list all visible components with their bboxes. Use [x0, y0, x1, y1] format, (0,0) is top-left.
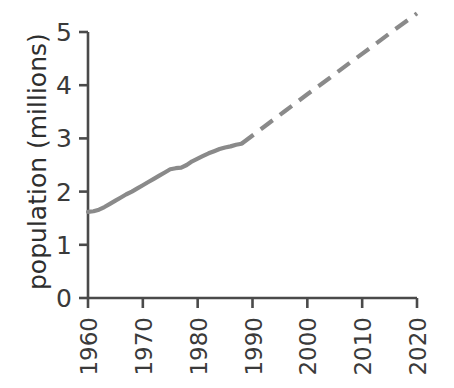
y-axis-tick-label: 5 — [56, 18, 72, 47]
y-axis-tick-label: 3 — [56, 124, 72, 153]
y-axis-tick-label: 0 — [56, 284, 72, 313]
chart-canvas: population (millions) 012345 19601970198… — [0, 0, 454, 388]
x-axis-tick-label: 2010 — [350, 317, 376, 376]
x-axis-tick-label: 1960 — [76, 317, 102, 376]
x-axis-tick-label: 1990 — [241, 317, 267, 376]
x-axis-tick-label: 1980 — [186, 317, 212, 376]
population-chart: population (millions) 012345 19601970198… — [0, 0, 454, 388]
x-axis-tick-label: 2000 — [295, 317, 321, 376]
y-axis-tick-label: 2 — [56, 178, 72, 207]
y-axis-tick-label: 1 — [56, 231, 72, 260]
y-axis-title: population (millions) — [23, 33, 52, 290]
y-axis-tick-label: 4 — [56, 71, 72, 100]
x-axis-tick-label: 2020 — [405, 317, 431, 376]
x-axis-tick-label: 1970 — [131, 317, 157, 376]
